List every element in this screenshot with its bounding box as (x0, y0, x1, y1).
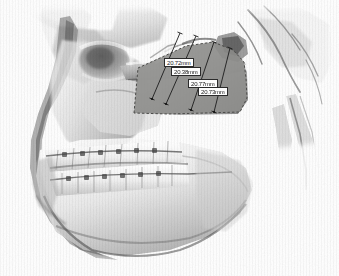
measurement-label-4[interactable]: 20.73mm (198, 87, 228, 96)
measurement-label-1[interactable]: 20.72mm (164, 58, 194, 67)
skull-render (0, 0, 339, 276)
cbct-image-viewport: 20.72mm 20.38mm 20.77mm 20.73mm (0, 0, 339, 276)
measurement-label-2[interactable]: 20.38mm (171, 67, 201, 76)
